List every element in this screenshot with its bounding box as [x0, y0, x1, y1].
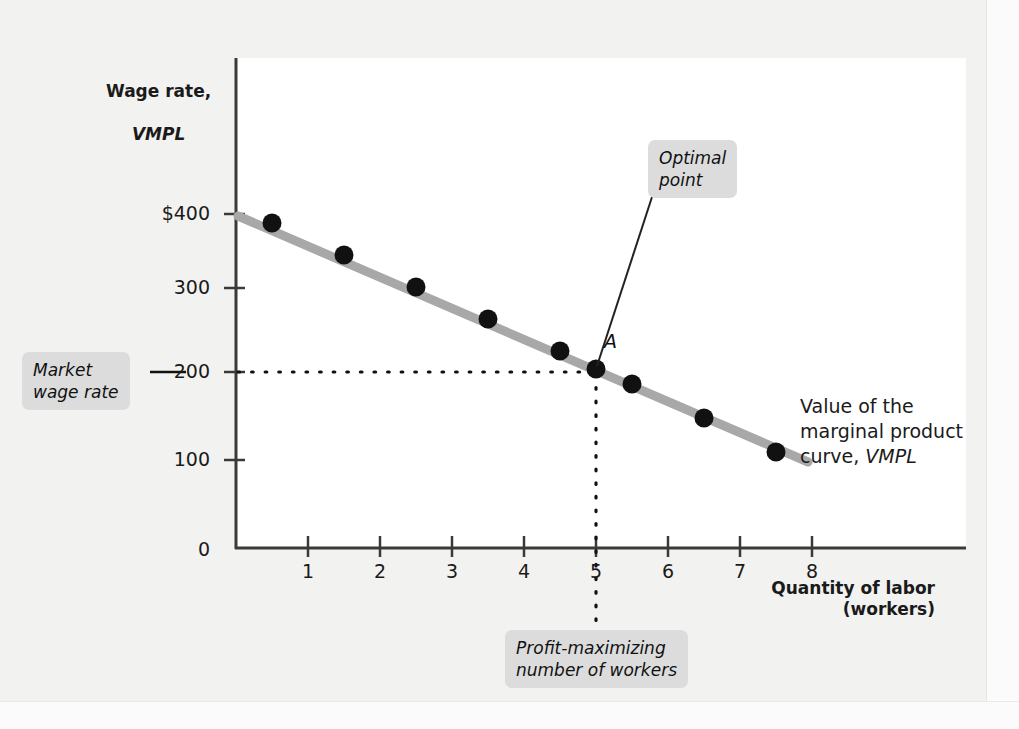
- callout-optimal-point: Optimal point: [648, 140, 737, 198]
- y-tick-label-300: 300: [130, 276, 210, 298]
- x-tick-label-6: 6: [648, 560, 688, 582]
- data-point: [767, 443, 786, 462]
- y-tick-label-400: $400: [130, 202, 210, 224]
- x-tick-label-4: 4: [504, 560, 544, 582]
- y-tick-label-0: 0: [130, 538, 210, 560]
- data-point: [551, 342, 570, 361]
- x-tick-label-5: 5: [576, 560, 616, 582]
- data-point: [407, 278, 426, 297]
- vmpl-curve-label: Value of the marginal product curve, VMP…: [800, 394, 963, 469]
- data-point: [695, 409, 714, 428]
- x-tick-label-1: 1: [288, 560, 328, 582]
- x-tick-label-7: 7: [720, 560, 760, 582]
- x-tick-label-2: 2: [360, 560, 400, 582]
- data-point: [335, 246, 354, 265]
- y-tick-label-200: 200: [130, 360, 210, 382]
- data-point-optimal: [587, 360, 606, 379]
- x-tick-label-8: 8: [792, 560, 832, 582]
- y-axis-title-line1: Wage rate,: [106, 81, 211, 102]
- x-tick-label-3: 3: [432, 560, 472, 582]
- vmpl-curve-label-italic: VMPL: [865, 445, 916, 467]
- figure-page: Wage rate, VMPL Quantity of labor (worke…: [0, 0, 1019, 729]
- callout-market-wage-rate: Market wage rate: [22, 352, 130, 410]
- y-axis-title-line2: VMPL: [106, 124, 211, 145]
- data-point: [263, 214, 282, 233]
- x-axis-title: Quantity of labor (workers): [700, 578, 935, 621]
- y-axis-title: Wage rate, VMPL: [106, 60, 211, 166]
- y-tick-label-100: 100: [130, 448, 210, 470]
- data-point: [479, 310, 498, 329]
- data-point: [623, 375, 642, 394]
- point-a-label: A: [604, 330, 617, 352]
- vmpl-curve: [238, 216, 808, 462]
- callout-profit-maximizing: Profit-maximizing number of workers: [505, 630, 688, 688]
